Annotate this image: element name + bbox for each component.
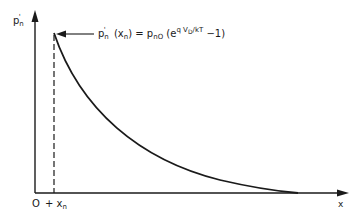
origin-label: O — [32, 199, 40, 209]
y-axis-arrowhead-icon — [32, 10, 39, 22]
eq-exp-q: q — [176, 26, 180, 34]
eq-exp-rest: /kT — [193, 26, 204, 34]
eq-lhs-arg-sub: n — [124, 33, 128, 41]
boundary-label: + xn — [45, 199, 67, 209]
eq-lhs-close: ) — [128, 28, 132, 39]
x-axis-label: x — [338, 200, 343, 209]
pointer-arrowhead-icon — [56, 31, 66, 38]
y-axis-label: pn' — [13, 16, 26, 26]
y-label-sub: n — [19, 20, 23, 28]
y-label-prime: ' — [19, 13, 21, 21]
decay-curve — [54, 33, 298, 193]
x-axis-arrowhead-icon — [337, 190, 349, 197]
eq-exponent: q VD/kT — [176, 26, 203, 34]
eq-lhs-arg: (x — [114, 28, 124, 39]
eq-rhs-sub: nO — [153, 33, 163, 41]
eq-exp-v-sub: D — [188, 28, 193, 35]
eq-lhs-sub: n — [104, 33, 108, 41]
x-label-text: x — [338, 199, 343, 209]
boundary-equation: pn' (xn) = pnO (eq VD/kT −1) — [98, 29, 225, 39]
eq-equals: = — [135, 28, 143, 39]
eq-open: (e — [166, 28, 176, 39]
boundary-base: x — [57, 198, 63, 209]
eq-lhs-prime: ' — [104, 26, 106, 34]
origin-text: O — [32, 198, 40, 209]
eq-tail: −1) — [206, 28, 225, 39]
boundary-sub: n — [63, 203, 67, 211]
boundary-prefix: + — [45, 198, 53, 209]
